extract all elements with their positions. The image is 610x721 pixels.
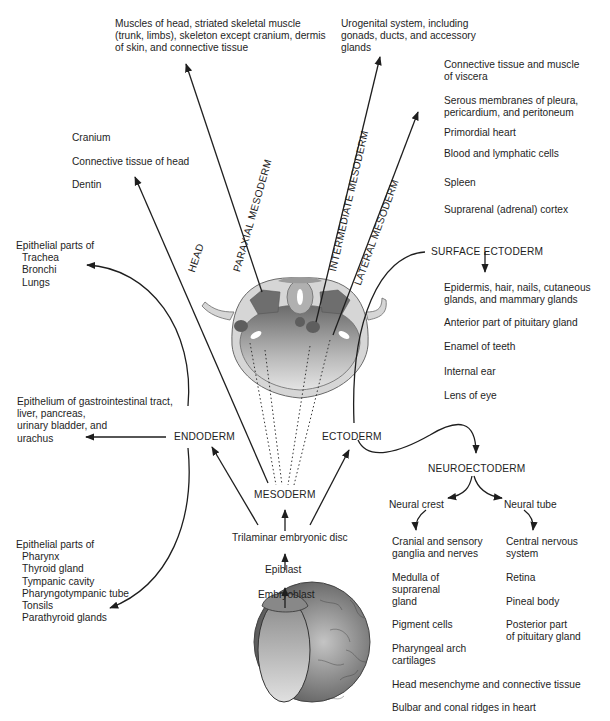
surface-ectoderm-derivative: Anterior part of pituitary gland bbox=[444, 317, 578, 329]
head-derivative-connective-tissue: Connective tissue of head bbox=[72, 156, 189, 168]
label-trilaminar-disc: Trilaminar embryonic disc bbox=[232, 532, 348, 544]
lateral-derivative: Serous membranes of pleura,pericardium, … bbox=[444, 95, 578, 119]
neural-tube-derivative: Central nervoussystem bbox=[506, 536, 578, 560]
neural-tube-derivative: Posterior partof pituitary gland bbox=[506, 619, 581, 643]
endoderm-upper-derivatives: Epithelial parts of Trachea Bronchi Lung… bbox=[16, 240, 94, 289]
lateral-derivative: Blood and lymphatic cells bbox=[444, 148, 559, 160]
label-neural-tube: Neural tube bbox=[504, 499, 557, 511]
embryo-cross-section bbox=[202, 277, 386, 485]
neural-crest-derivative: Pharyngeal archcartilages bbox=[392, 643, 466, 667]
lateral-derivative: Primordial heart bbox=[444, 127, 516, 139]
lateral-derivative: Spleen bbox=[444, 177, 476, 189]
label-embryoblast: Embryoblast bbox=[258, 589, 315, 601]
neural-crest-derivative: Cranial and sensoryganglia and nerves bbox=[392, 536, 483, 560]
neural-crest-wide-derivative: Bulbar and conal ridges in heart bbox=[392, 702, 536, 714]
surface-ectoderm-derivative: Enamel of teeth bbox=[444, 341, 515, 353]
neural-crest-derivative: Medulla ofsuprarenalgland bbox=[392, 572, 440, 609]
endoderm-lower-derivatives: Epithelial parts of Pharynx Thyroid glan… bbox=[16, 539, 129, 624]
label-ectoderm: ECTODERM bbox=[322, 431, 382, 443]
label-neural-crest: Neural crest bbox=[389, 499, 444, 511]
neural-tube-derivative: Pineal body bbox=[506, 596, 559, 608]
label-endoderm: ENDODERM bbox=[174, 431, 235, 443]
label-mesoderm: MESODERM bbox=[254, 489, 316, 501]
neural-tube-derivative: Retina bbox=[506, 572, 535, 584]
label-surface-ectoderm: SURFACE ECTODERM bbox=[431, 246, 543, 258]
label-epiblast: Epiblast bbox=[265, 564, 301, 576]
neural-crest-derivative: Pigment cells bbox=[392, 619, 453, 631]
surface-ectoderm-derivative: Lens of eye bbox=[444, 390, 497, 402]
paraxial-derivatives: Muscles of head, striated skeletal muscl… bbox=[115, 18, 326, 55]
label-neuroectoderm: NEUROECTODERM bbox=[428, 463, 526, 475]
intermediate-derivatives: Urogenital system, including gonads, duc… bbox=[341, 18, 476, 55]
surface-ectoderm-derivative: Epidermis, hair, nails, cutaneousglands,… bbox=[444, 282, 591, 306]
head-derivative-dentin: Dentin bbox=[72, 179, 101, 191]
head-derivative-cranium: Cranium bbox=[72, 132, 111, 144]
neural-crest-wide-derivative: Head mesenchyme and connective tissue bbox=[392, 679, 581, 691]
lateral-derivative: Suprarenal (adrenal) cortex bbox=[444, 204, 568, 216]
surface-ectoderm-derivative: Internal ear bbox=[444, 366, 496, 378]
lateral-derivative: Connective tissue and muscleof viscera bbox=[444, 59, 579, 83]
endoderm-middle-derivatives: Epithelium of gastrointestinal tract, li… bbox=[17, 396, 173, 445]
